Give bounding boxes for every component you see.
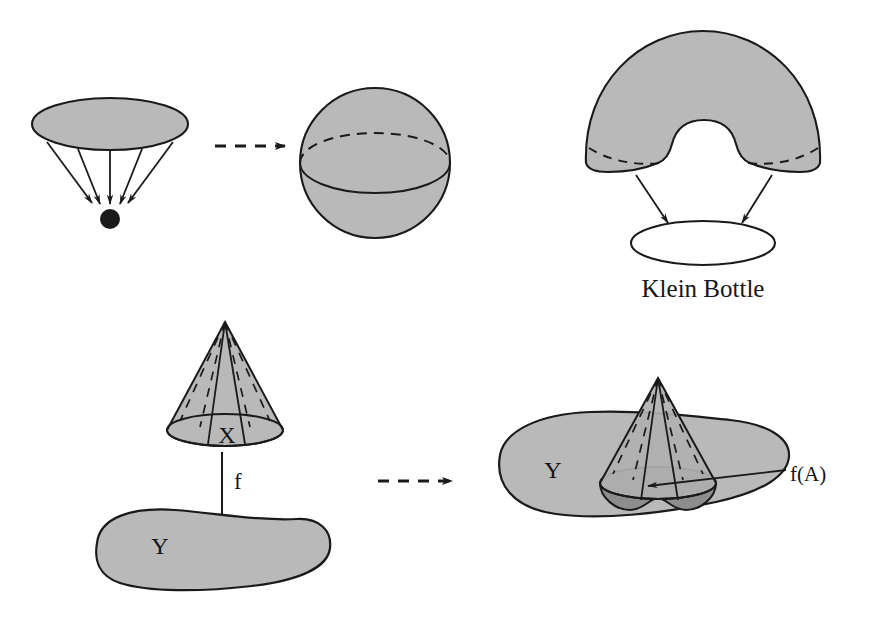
topology-diagram: Klein Bottle X f Y Y xyxy=(0,0,876,617)
filled-ellipse-disk xyxy=(32,98,188,150)
map-label-f: f xyxy=(234,469,242,494)
cone-label-x: X xyxy=(218,422,235,448)
sphere-outline xyxy=(300,88,450,238)
blob-label-y-right: Y xyxy=(544,457,561,483)
blob-label-y-left: Y xyxy=(151,533,168,559)
black-point xyxy=(100,209,120,229)
blob-y-left xyxy=(96,509,330,590)
figure-canvas: Klein Bottle X f Y Y xyxy=(0,0,876,617)
open-ellipse xyxy=(631,221,775,265)
label-fa: f(A) xyxy=(790,462,826,486)
panel-sphere xyxy=(300,88,450,238)
klein-bottle-label: Klein Bottle xyxy=(642,275,765,302)
